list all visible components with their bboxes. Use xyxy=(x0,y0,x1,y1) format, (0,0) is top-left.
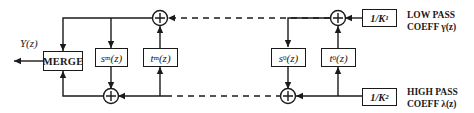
sm-block: sm(z) xyxy=(95,48,128,67)
adder-top-left xyxy=(153,11,168,26)
low-pass-label: LOW PASS COEFF γ(z) xyxy=(407,9,456,33)
high-pass-label: HIGH PASS COEFF λ(z) xyxy=(407,86,458,110)
output-label: Y(z) xyxy=(20,37,38,49)
k2-block: 1/K2 xyxy=(362,88,397,106)
tm-block: tm(z) xyxy=(143,48,178,67)
merge-block: MERGE xyxy=(43,51,83,71)
s0-block: s0(z) xyxy=(271,48,306,67)
wire-top-to-merge xyxy=(63,18,153,51)
wire-bottom-to-merge xyxy=(63,71,104,96)
k1-block: 1/K1 xyxy=(362,9,397,27)
adder-top-right xyxy=(331,11,346,26)
adder-bottom-right xyxy=(281,89,296,104)
wire-adder-to-s0 xyxy=(288,18,330,47)
adder-bottom-left xyxy=(104,89,119,104)
t0-block: t0(z) xyxy=(321,48,356,67)
